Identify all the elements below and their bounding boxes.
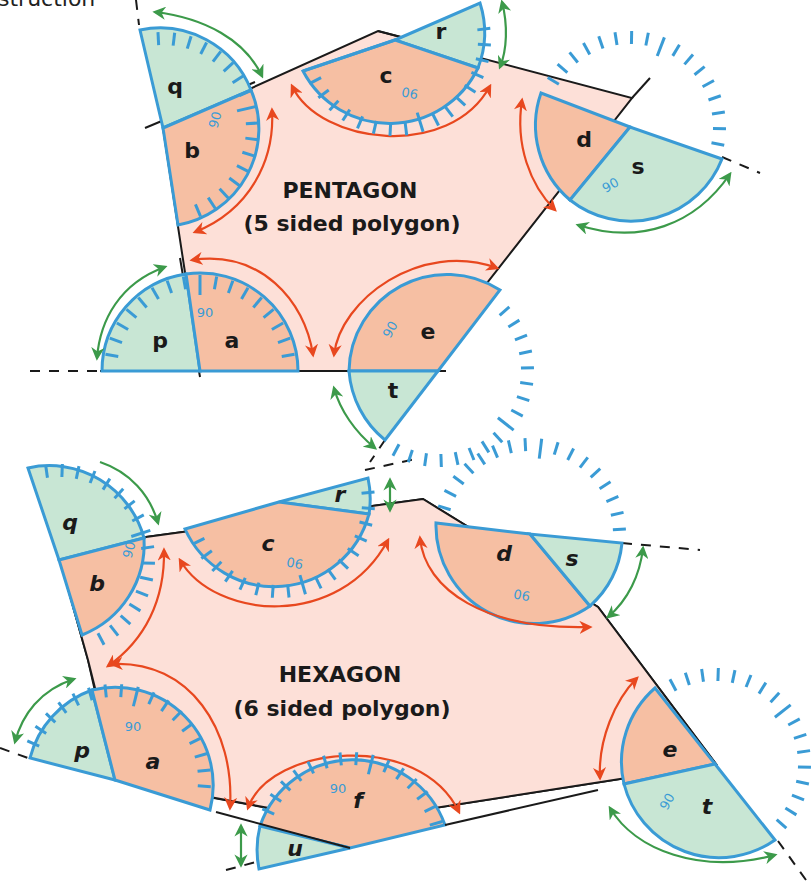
- extension-line: [722, 157, 760, 173]
- protractor-tick: [777, 820, 787, 829]
- label-a: a: [225, 328, 240, 353]
- label-a: a: [146, 749, 161, 774]
- protractor-tick: [684, 55, 693, 65]
- protractor-tick: [759, 683, 766, 694]
- label-s: s: [565, 546, 578, 571]
- protractor-tick: [554, 442, 558, 454]
- protractor-tick: [606, 496, 618, 501]
- label-u: u: [287, 836, 303, 861]
- protractor-tick: [465, 464, 474, 474]
- protractor-tick: [46, 465, 48, 478]
- label-e: e: [421, 319, 436, 344]
- protractor-tick: [673, 45, 680, 56]
- label-p: p: [73, 738, 90, 763]
- protractor-tick: [425, 453, 427, 466]
- protractor-tick: [469, 448, 474, 460]
- protractor-tick: [272, 585, 273, 598]
- extension-line: [370, 440, 385, 462]
- label-b: b: [184, 138, 200, 163]
- protractor-tick: [515, 335, 527, 340]
- extension-line: [136, 0, 139, 25]
- polygon-angles-diagram: p a 90 q b 90 r c 90: [0, 0, 811, 887]
- extension-line: [632, 78, 650, 98]
- protractor-tick: [794, 734, 806, 738]
- protractor-tick: [141, 547, 154, 549]
- protractor-tick: [356, 752, 357, 765]
- label-r: r: [335, 482, 347, 507]
- protractor-tick: [580, 457, 588, 467]
- label-b: b: [89, 571, 105, 596]
- protractor-tick: [775, 705, 791, 717]
- protractor-tick: [613, 529, 626, 530]
- pentagon-subtitle: (5 sided polygon): [243, 211, 460, 236]
- protractor-tick: [570, 52, 578, 62]
- exterior-angle-arrow: [500, 2, 506, 67]
- protractor-tick: [797, 751, 810, 753]
- protractor-tick: [788, 719, 799, 725]
- protractor-tick: [685, 673, 689, 685]
- protractor-tick: [703, 80, 714, 86]
- protractor-tick: [340, 753, 341, 766]
- protractor-tick: [517, 397, 529, 401]
- pentagon-title: PENTAGON: [282, 178, 417, 203]
- protractor-tick: [796, 781, 809, 784]
- label-q: q: [62, 510, 78, 535]
- protractor-tick: [558, 64, 568, 73]
- pentagon-vertex-d: d s 90: [520, 93, 730, 233]
- extension-line: [622, 543, 700, 550]
- protractor-tick: [444, 490, 456, 496]
- protractor-tick: [583, 43, 589, 54]
- protractor-tick: [405, 122, 407, 135]
- label-r: r: [436, 19, 447, 44]
- protractor-tick: [390, 123, 391, 136]
- protractor-tick: [477, 28, 490, 30]
- protractor-tick: [670, 679, 676, 690]
- protractor-tick: [785, 808, 796, 815]
- label-p: p: [152, 328, 168, 353]
- label-e: e: [663, 737, 678, 762]
- protractor-tick: [746, 675, 751, 687]
- protractor-tick: [539, 439, 541, 459]
- protractor-tick: [708, 96, 720, 100]
- label-c: c: [379, 63, 392, 88]
- protractor-tick: [478, 44, 491, 45]
- protractor-tick: [173, 33, 175, 46]
- protractor-tick: [482, 441, 489, 452]
- protractor-tick: [508, 440, 511, 453]
- protractor-tick: [455, 452, 458, 465]
- protractor-tick: [792, 795, 804, 800]
- protractor-tick: [362, 508, 375, 509]
- protractor-tick: [712, 112, 725, 114]
- protractor-tick: [525, 438, 526, 451]
- protractor-tick: [702, 669, 704, 682]
- hexagon-subtitle: (6 sided polygon): [233, 696, 450, 721]
- protractor-tick: [511, 410, 522, 416]
- protractor-tick: [198, 770, 211, 771]
- protractor-tick: [771, 693, 780, 703]
- protractor-tick: [158, 32, 159, 45]
- protractor-tick: [478, 453, 485, 464]
- protractor-mark-90: 90: [197, 305, 214, 320]
- protractor-tick: [105, 685, 106, 698]
- protractor-tick: [498, 418, 514, 430]
- hexagon-title: HEXAGON: [279, 662, 402, 687]
- protractor-tick: [362, 492, 375, 493]
- extension-line: [778, 841, 811, 887]
- protractor-tick: [519, 351, 532, 354]
- label-d: d: [496, 541, 512, 566]
- protractor-tick: [591, 469, 601, 478]
- protractor-tick: [646, 33, 648, 46]
- label-t: t: [388, 378, 399, 403]
- protractor-tick: [599, 36, 603, 48]
- protractor-tick: [568, 448, 574, 460]
- protractor-mark-90: 90: [330, 781, 347, 796]
- protractor-tick: [453, 476, 463, 484]
- hexagon-figure: p a 90 q b 90 r c 90: [0, 458, 811, 887]
- protractor-tick: [657, 37, 664, 56]
- protractor-tick: [508, 320, 519, 327]
- label-d: d: [576, 127, 592, 152]
- protractor-mark-90: 90: [512, 586, 531, 604]
- protractor-tick: [695, 67, 705, 75]
- protractor-tick: [246, 123, 259, 124]
- protractor-tick: [245, 138, 258, 140]
